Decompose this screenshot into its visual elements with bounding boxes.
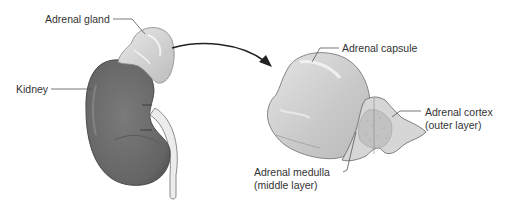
adrenal-gland-diagram: Adrenal gland Kidney Adrenal capsule Adr… <box>0 0 510 203</box>
label-adrenal-cortex-sub: (outer layer) <box>425 119 482 131</box>
label-adrenal-gland: Adrenal gland <box>45 13 110 25</box>
label-adrenal-medulla-sub: (middle layer) <box>254 179 318 191</box>
label-adrenal-cortex: Adrenal cortex <box>425 106 493 118</box>
label-adrenal-medulla: Adrenal medulla <box>254 166 330 178</box>
label-adrenal-capsule: Adrenal capsule <box>342 42 417 54</box>
label-kidney: Kidney <box>16 83 48 95</box>
magnification-arrow <box>172 44 272 67</box>
